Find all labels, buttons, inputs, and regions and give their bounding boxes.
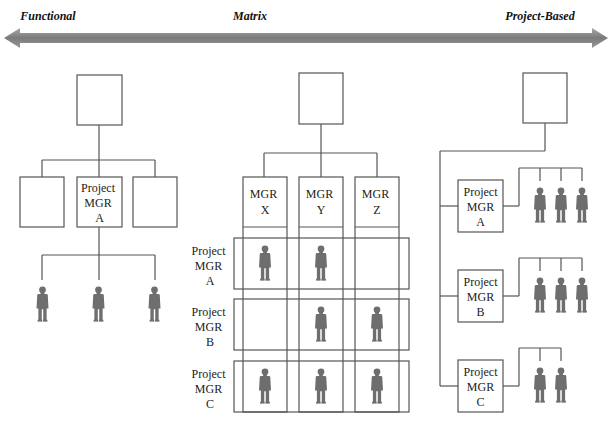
person-icon [371,368,383,403]
person-icon [315,306,327,341]
project-based-branch: ProjectMGRA [440,168,588,232]
project-based-branch: ProjectMGRB [440,258,588,322]
person-icon [259,368,271,403]
person-icon [555,277,567,312]
person-icon [576,277,588,312]
functional-dept-box [133,177,177,227]
matrix-row-label-c: Project MGR C [192,367,229,411]
person-icon [534,367,546,402]
matrix-column-label-x: MGR X [250,187,280,217]
matrix-column-label-y: MGR Y [306,187,336,217]
person-icon [555,187,567,222]
person-icon [149,286,161,321]
person-icon [315,368,327,403]
person-icon [534,187,546,222]
functional-dept-box [20,177,64,227]
person-icon [37,286,49,321]
matrix-row-label-a: Project MGR A [192,244,229,288]
person-icon [93,286,105,321]
person-icon [576,187,588,222]
label-functional: Functional [19,9,76,23]
double-arrow-icon [4,28,608,48]
person-icon [315,245,327,280]
project-based-top-box [523,73,567,123]
matrix-column-label-z: MGR Z [362,187,392,217]
label-project-based: Project-Based [505,9,575,23]
functional-top-box [77,75,122,125]
matrix-top-box [299,73,343,124]
matrix-row-label-b: Project MGR B [192,305,229,349]
person-icon [371,306,383,341]
spectrum-arrow [4,28,608,48]
person-icon [259,245,271,280]
person-icon [534,277,546,312]
person-icon [555,367,567,402]
matrix-structure: MGR X MGR Y MGR Z Project MGR A Project … [192,73,410,412]
project-based-structure: ProjectMGRAProjectMGRBProjectMGRC [440,73,588,412]
org-structure-diagram: Functional Matrix Project-Based Project … [0,0,612,426]
project-based-branch: ProjectMGRC [440,348,567,412]
label-matrix: Matrix [232,9,267,23]
functional-structure: Project MGR A [20,75,177,322]
